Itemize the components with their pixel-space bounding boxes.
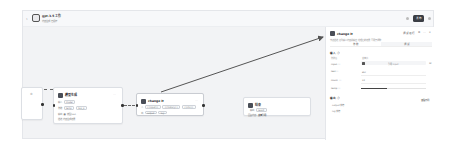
count-input[interactable]: 10 (362, 79, 365, 82)
tab-params[interactable]: 参数 (330, 42, 381, 46)
text-input[interactable]: abc (362, 71, 366, 74)
variable-icon (362, 62, 365, 65)
gear-icon[interactable]: ⚙ (418, 31, 420, 35)
panel-tabs: 参数 调试 (330, 42, 432, 47)
node-config-panel: change it 调试运行 ⚙ ⋯ × 节点描述 修改输入内容 并输出 处理后… (325, 27, 435, 140)
workflow-editor: ‹ gpt-3.5 工作 内容生成 已保存 发布 ⚙ 模型生成 ⋯ 输入 mod… (22, 10, 434, 139)
tab-debug[interactable]: 调试 (381, 42, 432, 46)
temp-slider[interactable] (361, 88, 426, 89)
close-icon[interactable]: × (429, 31, 431, 35)
field-label: count ⓘ (331, 78, 341, 82)
output-item: output 字符 (332, 103, 344, 107)
field-label: temp ⓘ (331, 86, 340, 90)
field-label: input ⓘ (331, 62, 340, 66)
input-section-title[interactable]: 输入 ⓘ (330, 51, 340, 55)
output-section-title[interactable]: 输出 ⓘ (330, 96, 340, 100)
field-label: text ⓘ (331, 69, 338, 73)
col-header-name: 参数名 (331, 56, 337, 60)
view-example-link[interactable]: 查看示例 (421, 98, 429, 102)
output-item: log 字符 (332, 109, 340, 113)
input-select[interactable]: 引用 input (361, 61, 426, 65)
panel-title: change it (337, 32, 353, 36)
debug-run-button[interactable]: 调试运行 (403, 31, 415, 35)
code-icon (330, 31, 335, 36)
col-header-value: 变量值 (362, 56, 368, 60)
more-icon[interactable]: ⋯ (423, 31, 426, 35)
info-icon[interactable]: ⊙ (429, 61, 432, 65)
